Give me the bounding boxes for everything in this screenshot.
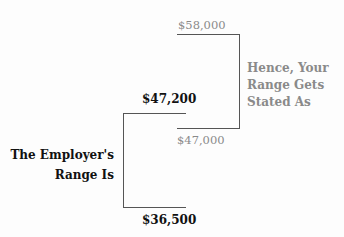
your-range-top-line: [177, 34, 240, 35]
employer-range-top-line: [123, 113, 186, 114]
your-range-label-line3: Stated As: [247, 94, 329, 111]
employer-range-label: The Employer's Range Is: [10, 145, 114, 185]
employer-range-label-line2: Range Is: [10, 165, 114, 185]
your-range-high-value: $58,000: [178, 18, 226, 33]
your-range-vertical-line: [239, 34, 240, 129]
employer-range-label-line1: The Employer's: [10, 145, 114, 165]
your-range-label-line1: Hence, Your: [247, 60, 329, 77]
employer-range-vertical-line: [123, 113, 124, 208]
your-range-label: Hence, Your Range Gets Stated As: [247, 60, 329, 111]
your-range-label-line2: Range Gets: [247, 77, 329, 94]
your-range-bottom-line: [177, 128, 240, 129]
employer-range-low-value: $36,500: [142, 213, 196, 228]
employer-range-bottom-line: [123, 207, 186, 208]
your-range-low-value: $47,000: [177, 133, 225, 148]
employer-range-high-value: $47,200: [142, 92, 196, 107]
